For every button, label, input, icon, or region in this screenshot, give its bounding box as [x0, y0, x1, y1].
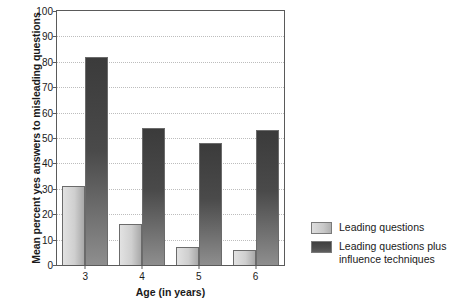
bar-group	[57, 11, 114, 265]
bar	[233, 250, 256, 265]
y-axis-tick-label: 90	[42, 31, 53, 42]
bar-group	[114, 11, 171, 265]
y-axis-title: Mean percent yes answers to misleading q…	[30, 0, 42, 278]
bar	[85, 57, 108, 265]
y-axis-tick-label: 30	[42, 183, 53, 194]
bar-groups	[57, 11, 284, 265]
legend-item: Leading questions plus influence techniq…	[311, 240, 459, 265]
legend-swatch-influence-techniques	[311, 241, 332, 253]
y-axis-tick-label: 40	[42, 158, 53, 169]
x-axis-tick-mark	[142, 265, 143, 269]
y-axis-tick-label: 100	[36, 6, 53, 17]
y-axis-tick-label: 10	[42, 234, 53, 245]
legend: Leading questions Leading questions plus…	[311, 221, 459, 271]
bar-group	[227, 11, 284, 265]
legend-swatch-leading-questions	[311, 222, 332, 234]
bar	[62, 186, 85, 265]
bar	[119, 224, 142, 265]
bar	[199, 143, 222, 265]
bar-chart-figure: Mean percent yes answers to misleading q…	[0, 0, 462, 307]
x-axis-tick-mark	[198, 265, 199, 269]
y-axis-tick-label: 80	[42, 56, 53, 67]
x-axis-tick-mark	[85, 265, 86, 269]
legend-item: Leading questions	[311, 221, 459, 234]
y-axis-tick-label: 60	[42, 107, 53, 118]
x-axis-tick-label: 6	[253, 271, 259, 282]
legend-label: Leading questions plus influence techniq…	[339, 240, 459, 265]
bar	[176, 247, 199, 265]
x-axis-tick-label: 4	[139, 271, 145, 282]
x-axis-tick-label: 3	[83, 271, 89, 282]
bar-group	[171, 11, 228, 265]
x-axis-tick-mark	[255, 265, 256, 269]
y-axis-tick-label: 70	[42, 82, 53, 93]
bar	[142, 128, 165, 265]
x-axis-title: Age (in years)	[56, 286, 285, 298]
y-axis-tick-label: 20	[42, 209, 53, 220]
bar	[256, 130, 279, 265]
x-axis-tick-label: 5	[196, 271, 202, 282]
y-axis-tick-label: 50	[42, 133, 53, 144]
legend-label: Leading questions	[339, 221, 424, 234]
y-axis-tick-mark	[53, 265, 57, 266]
plot-area: 0102030405060708090100 3456	[56, 10, 285, 266]
